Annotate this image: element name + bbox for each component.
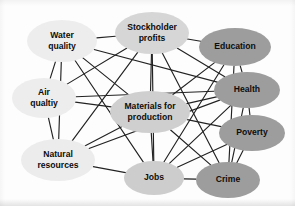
- edge-water_quality-to-air_quality: [50, 62, 55, 79]
- node-air_quality[interactable]: Airqualtiy: [12, 78, 76, 118]
- concept-map-graph: WaterqualityStockholderprofitsEducationA…: [0, 0, 295, 206]
- edge-water_quality-to-materials_for_production: [83, 58, 128, 95]
- node-education[interactable]: Education: [199, 28, 271, 66]
- edge-poverty-to-crime: [237, 150, 243, 162]
- node-health[interactable]: Health: [214, 72, 280, 108]
- edge-materials_for_production-to-jobs: [151, 133, 153, 161]
- node-shape-jobs: [124, 161, 184, 195]
- edge-stockholder_profits-to-materials_for_production: [151, 54, 152, 91]
- node-shape-air_quality: [12, 78, 76, 118]
- node-poverty[interactable]: Poverty: [219, 115, 285, 151]
- node-shape-crime: [196, 162, 260, 198]
- node-shape-stockholder_profits: [115, 12, 189, 54]
- edge-materials_for_production-to-poverty: [187, 120, 221, 127]
- node-water_quality[interactable]: Waterquality: [27, 20, 97, 62]
- edge-air_quality-to-natural_resources: [48, 118, 53, 139]
- node-jobs[interactable]: Jobs: [124, 161, 184, 195]
- concept-map-canvas: WaterqualityStockholderprofitsEducationA…: [0, 0, 295, 206]
- node-shape-natural_resources: [21, 139, 95, 181]
- edge-education-to-health: [240, 66, 242, 72]
- node-shape-health: [214, 72, 280, 108]
- edge-health-to-poverty: [249, 108, 250, 115]
- node-materials_for_production[interactable]: Materials forproduction: [110, 91, 190, 133]
- edge-water_quality-to-health: [94, 49, 217, 82]
- node-layer: WaterqualityStockholderprofitsEducationA…: [12, 12, 285, 198]
- edge-stockholder_profits-to-education: [187, 39, 200, 41]
- edge-water_quality-to-stockholder_profits: [97, 36, 116, 38]
- node-shape-education: [199, 28, 271, 66]
- node-shape-water_quality: [27, 20, 97, 62]
- node-stockholder_profits[interactable]: Stockholderprofits: [115, 12, 189, 54]
- edge-air_quality-to-materials_for_production: [75, 102, 111, 107]
- node-shape-poverty: [219, 115, 285, 151]
- node-natural_resources[interactable]: Naturalresources: [21, 139, 95, 181]
- node-shape-materials_for_production: [110, 91, 190, 133]
- edge-natural_resources-to-jobs: [93, 167, 125, 173]
- node-crime[interactable]: Crime: [196, 162, 260, 198]
